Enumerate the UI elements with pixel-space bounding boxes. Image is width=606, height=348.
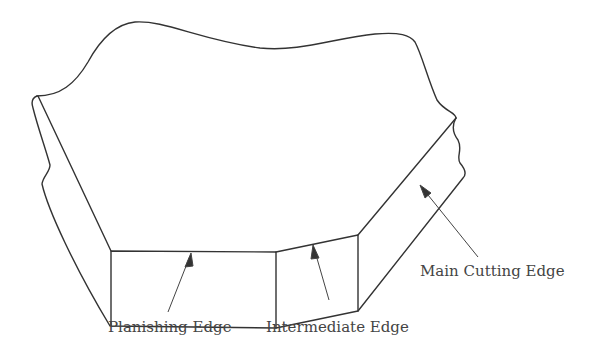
label-intermediate-edge: Intermediate Edge [266, 318, 409, 336]
top-face-outline [37, 22, 456, 118]
main-cutting-edge [358, 118, 456, 235]
label-planishing-edge: Planishing Edge [108, 318, 232, 336]
left-side-outline [32, 96, 110, 326]
right-side-outline [358, 118, 465, 311]
label-main-cutting-edge: Main Cutting Edge [420, 262, 565, 280]
planishing-face [111, 251, 276, 328]
tool-insert-diagram [0, 0, 606, 348]
intermediate-face [276, 235, 358, 328]
left-edge [38, 96, 111, 251]
